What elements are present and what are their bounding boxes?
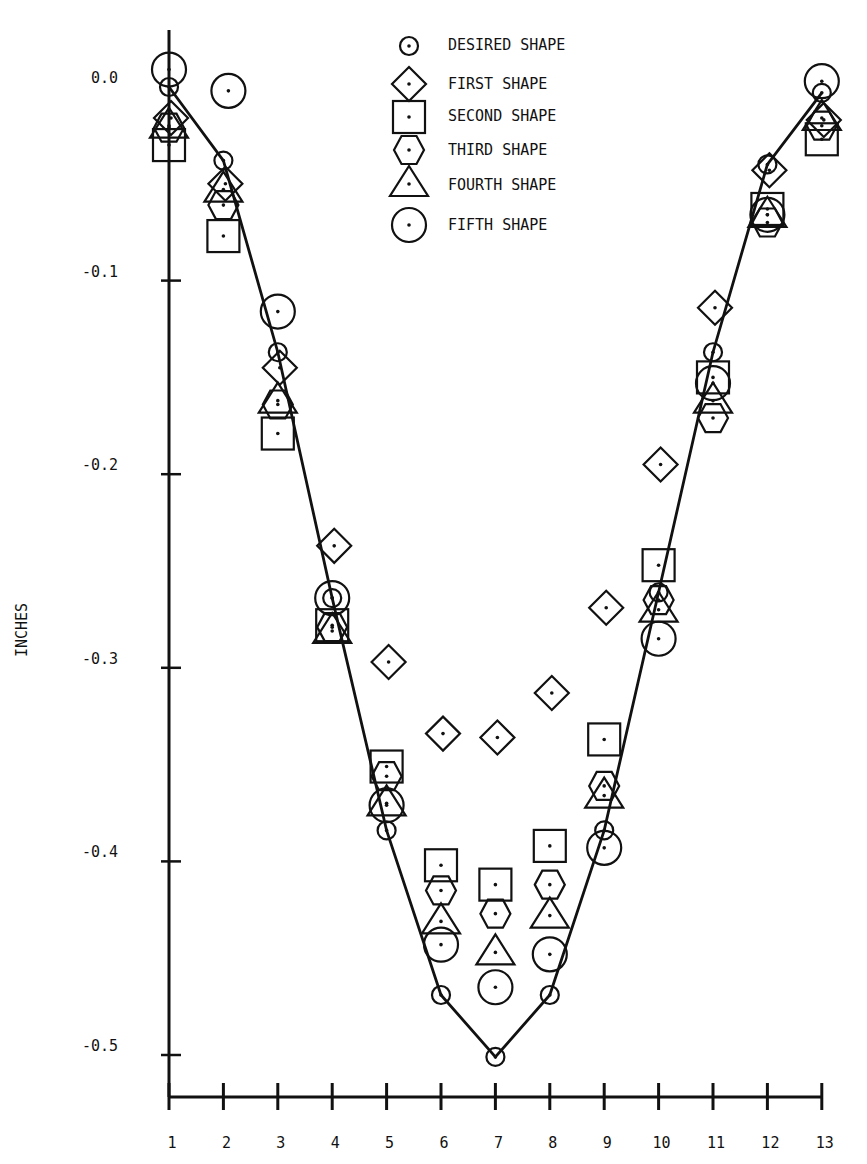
legend-item: FIRST SHAPE	[392, 67, 547, 101]
series-third-shape	[154, 112, 837, 928]
legend-item: SECOND SHAPE	[393, 101, 556, 133]
series-layer	[150, 53, 841, 1066]
data-point-square-marker-icon	[479, 869, 511, 901]
legend-item: FOURTH SHAPE	[390, 166, 556, 196]
data-point-hexagon-marker-icon	[208, 191, 238, 219]
y-tick-label: 0.0	[91, 69, 118, 87]
x-tick-label: 3	[276, 1134, 285, 1152]
data-point-hexagon-marker-icon	[480, 900, 510, 928]
data-point-diamond-marker-icon	[752, 153, 786, 187]
x-tick-label: 10	[653, 1134, 671, 1152]
series-first-shape	[154, 101, 841, 755]
data-point-large-circle-marker-icon	[533, 937, 567, 971]
y-tick-label: -0.2	[82, 456, 118, 474]
data-point-triangle-marker-icon	[531, 898, 569, 928]
legend: DESIRED SHAPEFIRST SHAPESECOND SHAPETHIR…	[390, 36, 565, 242]
data-point-small-circle-marker-icon	[432, 986, 450, 1004]
data-point-diamond-marker-icon	[589, 591, 623, 625]
legend-item: THIRD SHAPE	[394, 136, 547, 164]
data-point-triangle-marker-icon	[476, 934, 514, 964]
x-tick-label: 11	[707, 1134, 725, 1152]
data-point-large-circle-marker-icon	[478, 970, 512, 1004]
data-point-small-circle-marker-icon	[378, 821, 396, 839]
data-point-triangle-marker-icon	[422, 903, 460, 933]
data-point-large-circle-marker-icon	[587, 831, 621, 865]
large-circle-legend-icon	[392, 208, 426, 242]
x-tick-label: 8	[548, 1134, 557, 1152]
legend-item: DESIRED SHAPE	[400, 36, 565, 55]
legend-item: FIFTH SHAPE	[392, 208, 547, 242]
data-point-diamond-marker-icon	[372, 645, 406, 679]
data-point-diamond-marker-icon	[480, 720, 514, 754]
y-tick-label: -0.3	[82, 650, 118, 668]
x-tick-label: 5	[385, 1134, 394, 1152]
hexagon-legend-icon	[394, 136, 424, 164]
data-point-diamond-marker-icon	[426, 717, 460, 751]
legend-label: THIRD SHAPE	[448, 141, 547, 159]
legend-label: FIRST SHAPE	[448, 75, 547, 93]
data-point-diamond-marker-icon	[535, 676, 569, 710]
series-second-shape	[153, 123, 838, 900]
shape-comparison-chart: 0.0-0.1-0.2-0.3-0.4-0.512345678910111213…	[0, 0, 867, 1164]
data-point-hexagon-marker-icon	[535, 871, 565, 899]
y-tick-label: -0.1	[82, 263, 118, 281]
series-fifth-shape	[152, 53, 839, 1005]
y-tick-label: -0.5	[82, 1037, 118, 1055]
legend-label: FOURTH SHAPE	[448, 176, 556, 194]
data-point-small-circle-marker-icon	[486, 1048, 504, 1066]
data-point-large-circle-marker-icon	[211, 74, 245, 108]
data-point-diamond-marker-icon	[644, 448, 678, 482]
x-tick-label: 2	[222, 1134, 231, 1152]
x-tick-label: 12	[761, 1134, 779, 1152]
x-tick-label: 7	[494, 1134, 503, 1152]
legend-label: DESIRED SHAPE	[448, 36, 565, 54]
data-point-square-marker-icon	[262, 418, 294, 450]
small-circle-legend-icon	[400, 37, 418, 55]
square-legend-icon	[393, 101, 425, 133]
x-tick-label: 1	[167, 1134, 176, 1152]
x-tick-label: 6	[439, 1134, 448, 1152]
y-tick-label: -0.4	[82, 843, 118, 861]
data-point-small-circle-marker-icon	[541, 986, 559, 1004]
legend-label: FIFTH SHAPE	[448, 216, 547, 234]
x-tick-label: 4	[331, 1134, 340, 1152]
triangle-legend-icon	[390, 166, 428, 196]
y-axis-title: INCHES	[13, 603, 31, 657]
x-tick-label: 9	[603, 1134, 612, 1152]
axes: 0.0-0.1-0.2-0.3-0.4-0.512345678910111213	[82, 30, 834, 1152]
data-point-square-marker-icon	[643, 549, 675, 581]
data-point-hexagon-marker-icon	[317, 613, 347, 641]
data-point-square-marker-icon	[534, 830, 566, 862]
diamond-legend-icon	[392, 67, 426, 101]
data-point-square-marker-icon	[207, 220, 239, 252]
data-point-hexagon-marker-icon	[698, 404, 728, 432]
data-point-small-circle-marker-icon	[214, 152, 232, 170]
data-point-large-circle-marker-icon	[696, 366, 730, 400]
data-point-square-marker-icon	[588, 723, 620, 755]
x-tick-label: 13	[816, 1134, 834, 1152]
legend-label: SECOND SHAPE	[448, 107, 556, 125]
